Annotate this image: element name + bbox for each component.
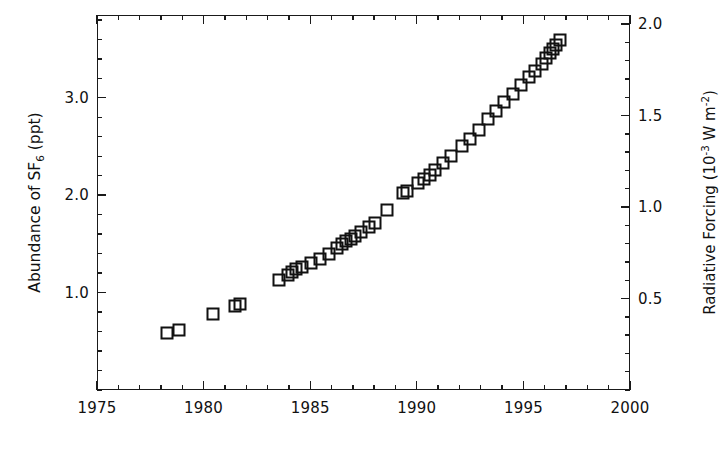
x-axis-minor-tick	[139, 15, 140, 20]
y-axis-minor-tick	[97, 78, 102, 79]
y-axis-tick-label: 1.0	[45, 284, 89, 302]
x-axis-minor-tick	[608, 385, 609, 390]
x-axis-tick-label: 1975	[78, 399, 117, 417]
x-axis-minor-tick	[437, 385, 438, 390]
y-axis-title-pre: Abundance of SF	[26, 162, 44, 293]
x-axis-tick-label: 1985	[291, 399, 330, 417]
y2-axis-minor-tick	[625, 261, 630, 262]
y-axis-minor-tick	[97, 272, 102, 273]
y2-axis-major-tick	[621, 115, 630, 116]
x-axis-major-tick	[203, 15, 204, 24]
x-axis-minor-tick	[352, 385, 353, 390]
x-axis-minor-tick	[587, 15, 588, 20]
x-axis-minor-tick	[395, 385, 396, 390]
y2-axis-minor-tick	[625, 151, 630, 152]
y-axis-minor-tick	[97, 331, 102, 332]
y-axis-title: Abundance of SF6 (ppt)	[26, 15, 46, 390]
x-axis-major-tick	[203, 381, 204, 390]
x-axis-minor-tick	[160, 15, 161, 20]
x-axis-minor-tick	[246, 385, 247, 390]
y2-axis-tick-label: 0.5	[638, 290, 662, 308]
y2-axis-title-pre: Radiative Forcing (10	[701, 155, 719, 314]
y-axis-major-tick	[97, 194, 106, 195]
x-axis-minor-tick	[459, 15, 460, 20]
y-axis-major-tick	[97, 97, 106, 98]
x-axis-minor-tick	[331, 15, 332, 20]
y2-axis-minor-tick	[625, 353, 630, 354]
y2-axis-minor-tick	[625, 42, 630, 43]
x-axis-minor-tick	[331, 385, 332, 390]
y-axis-minor-tick	[97, 39, 102, 40]
x-axis-minor-tick	[267, 15, 268, 20]
y2-axis-minor-tick	[625, 371, 630, 372]
y-axis-minor-tick	[97, 136, 102, 137]
x-axis-major-tick	[416, 381, 417, 390]
x-axis-minor-tick	[544, 385, 545, 390]
y-axis-major-tick	[97, 292, 106, 293]
x-axis-minor-tick	[224, 15, 225, 20]
y2-axis-minor-tick	[625, 78, 630, 79]
x-axis-minor-tick	[246, 15, 247, 20]
x-axis-minor-tick	[182, 15, 183, 20]
x-axis-minor-tick	[224, 385, 225, 390]
y-axis-minor-tick	[97, 19, 102, 20]
y2-axis-major-tick	[621, 23, 630, 24]
y2-axis-minor-tick	[625, 334, 630, 335]
x-axis-minor-tick	[544, 15, 545, 20]
x-axis-minor-tick	[373, 385, 374, 390]
x-axis-minor-tick	[565, 385, 566, 390]
y2-axis-title-post: )	[701, 90, 719, 96]
x-axis-minor-tick	[118, 15, 119, 20]
y2-axis-minor-tick	[625, 188, 630, 189]
y2-axis-minor-tick	[625, 225, 630, 226]
y2-axis-minor-tick	[625, 97, 630, 98]
y-axis-minor-tick	[97, 58, 102, 59]
x-axis-tick-label: 1995	[504, 399, 543, 417]
y2-axis-minor-tick	[625, 280, 630, 281]
data-point-marker	[553, 34, 566, 47]
y-axis-minor-tick	[97, 175, 102, 176]
y-axis-tick-label: 3.0	[45, 89, 89, 107]
data-point-marker	[380, 203, 393, 216]
data-point-marker	[173, 323, 186, 336]
x-axis-minor-tick	[565, 15, 566, 20]
y2-axis-minor-tick	[625, 316, 630, 317]
y-axis-tick-label: 2.0	[45, 186, 89, 204]
data-point-marker	[233, 298, 246, 311]
y2-axis-tick-label: 1.0	[638, 198, 662, 216]
y-axis-title-post: (ppt)	[26, 112, 44, 155]
y2-axis-minor-tick	[625, 243, 630, 244]
x-axis-minor-tick	[501, 15, 502, 20]
x-axis-minor-tick	[139, 385, 140, 390]
x-axis-minor-tick	[118, 385, 119, 390]
y2-axis-minor-tick	[625, 170, 630, 171]
y2-axis-tick-label: 2.0	[638, 15, 662, 33]
y2-axis-minor-tick	[625, 389, 630, 390]
x-axis-major-tick	[523, 15, 524, 24]
x-axis-minor-tick	[608, 15, 609, 20]
x-axis-tick-label: 1980	[184, 399, 223, 417]
y2-axis-title-sup2: -2	[700, 96, 711, 106]
x-axis-minor-tick	[480, 15, 481, 20]
x-axis-minor-tick	[501, 385, 502, 390]
x-axis-minor-tick	[587, 385, 588, 390]
y2-axis-minor-tick	[625, 133, 630, 134]
y2-axis-tick-label: 1.5	[638, 107, 662, 125]
y-axis-minor-tick	[97, 389, 102, 390]
data-point-marker	[207, 308, 220, 321]
y2-axis-title-sup1: -3	[700, 145, 711, 155]
y2-axis-major-tick	[621, 206, 630, 207]
x-axis-minor-tick	[373, 15, 374, 20]
x-axis-major-tick	[523, 381, 524, 390]
data-point-marker	[369, 217, 382, 230]
x-axis-minor-tick	[288, 385, 289, 390]
x-axis-minor-tick	[437, 15, 438, 20]
y-axis-minor-tick	[97, 311, 102, 312]
x-axis-minor-tick	[480, 385, 481, 390]
x-axis-major-tick	[310, 381, 311, 390]
x-axis-minor-tick	[459, 385, 460, 390]
y2-axis-major-tick	[621, 298, 630, 299]
x-axis-tick-label: 1990	[397, 399, 436, 417]
y-axis-minor-tick	[97, 233, 102, 234]
y2-axis-title-mid: W m	[701, 106, 719, 145]
